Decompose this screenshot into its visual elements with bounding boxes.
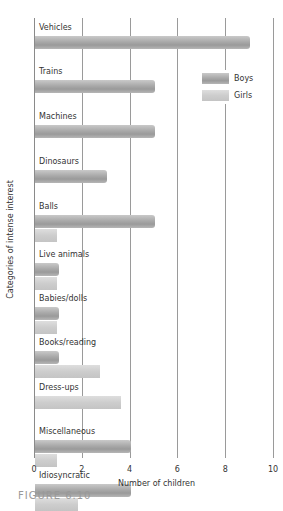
bar-boys xyxy=(35,215,155,228)
x-tick-label: 4 xyxy=(127,465,132,474)
category-label: Dinosaurs xyxy=(39,157,79,166)
category-label: Live animals xyxy=(39,250,89,259)
grid-line xyxy=(177,18,178,458)
category-label: Balls xyxy=(39,202,58,211)
bar-girls xyxy=(35,365,100,378)
category-label: Dress-ups xyxy=(39,383,79,392)
bar-girls xyxy=(35,277,57,290)
y-axis-label: Categories of intense interest xyxy=(6,170,15,310)
boys-swatch xyxy=(202,73,229,84)
bar-girls xyxy=(35,454,57,467)
figure-caption: FIGURE 6.10 xyxy=(18,490,91,501)
girls-swatch xyxy=(202,90,229,101)
category-label: Trains xyxy=(39,67,62,76)
x-tick-label: 6 xyxy=(175,465,180,474)
bar-boys xyxy=(35,307,59,320)
x-tick-label: 2 xyxy=(79,465,84,474)
category-label: Books/reading xyxy=(39,338,96,347)
category-label: Vehicles xyxy=(39,23,72,32)
legend: Boys Girls xyxy=(202,70,253,104)
bar-boys xyxy=(35,263,59,276)
bar-boys xyxy=(35,440,131,453)
legend-item-boys: Boys xyxy=(202,70,253,87)
bar-boys xyxy=(35,170,107,183)
x-tick-label: 0 xyxy=(31,465,36,474)
legend-label-girls: Girls xyxy=(234,91,252,100)
bar-boys xyxy=(35,80,155,93)
x-axis-label: Number of children xyxy=(0,479,283,488)
bar-boys xyxy=(35,351,59,364)
legend-label-boys: Boys xyxy=(234,74,253,83)
bar-girls xyxy=(35,396,121,409)
bar-boys xyxy=(35,125,155,138)
category-label: Miscellaneous xyxy=(39,427,95,436)
x-tick-label: 8 xyxy=(223,465,228,474)
bar-girls xyxy=(35,321,57,334)
grid-line xyxy=(273,18,274,458)
bar-girls xyxy=(35,229,57,242)
x-tick-label: 10 xyxy=(268,465,278,474)
legend-item-girls: Girls xyxy=(202,87,253,104)
category-label: Machines xyxy=(39,112,77,121)
bar-boys xyxy=(35,36,250,49)
category-label: Babies/dolls xyxy=(39,294,87,303)
